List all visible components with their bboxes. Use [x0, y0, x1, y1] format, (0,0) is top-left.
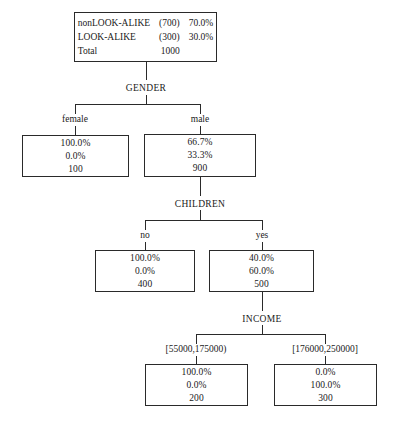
root-row-0-count: (700) [159, 16, 180, 30]
node-female-pct-lookalike: 0.0% [65, 150, 85, 163]
node-children-yes-pct-nonlookalike: 40.0% [249, 252, 274, 265]
split-label-children: CHILDREN [145, 199, 255, 210]
node-children-no-total: 400 [138, 278, 153, 291]
node-children-yes-pct-lookalike: 60.0% [249, 265, 274, 278]
node-income-low-pct-nonlookalike: 100.0% [182, 366, 212, 379]
node-male: 66.7% 33.3% 900 [144, 134, 256, 177]
node-children-no-pct-nonlookalike: 100.0% [130, 252, 160, 265]
node-income-high: 0.0% 100.0% 300 [274, 364, 377, 406]
node-children-yes: 40.0% 60.0% 500 [209, 250, 314, 292]
root-row-2-label: Total [78, 44, 150, 58]
node-children-no: 100.0% 0.0% 400 [95, 250, 195, 292]
node-male-pct-nonlookalike: 66.7% [187, 136, 212, 149]
node-children-no-pct-lookalike: 0.0% [135, 265, 155, 278]
root-row-0-pct: 70.0% [189, 16, 214, 30]
node-income-low: 100.0% 0.0% 200 [145, 364, 248, 406]
node-income-high-pct-nonlookalike: 0.0% [315, 366, 335, 379]
root-row-1-pct: 30.0% [189, 30, 214, 44]
root-row-1-label: LOOK-ALIKE [78, 30, 150, 44]
node-income-low-pct-lookalike: 0.0% [186, 379, 206, 392]
node-root: nonLOOK-ALIKE (700) 70.0% LOOK-ALIKE (30… [74, 12, 217, 62]
branch-label-yes: yes [222, 230, 302, 241]
node-income-high-total: 300 [318, 392, 333, 405]
branch-label-no: no [105, 230, 185, 241]
tree-connector-lines [0, 0, 399, 422]
branch-label-income-low: [55000,175000) [146, 344, 246, 355]
root-row-0-label: nonLOOK-ALIKE [78, 16, 150, 30]
node-female-pct-nonlookalike: 100.0% [61, 137, 91, 150]
node-male-pct-lookalike: 33.3% [187, 149, 212, 162]
root-row-2-count: 1000 [159, 44, 180, 58]
split-label-income: INCOME [212, 314, 312, 325]
branch-label-female: female [35, 114, 115, 125]
branch-label-male: male [160, 114, 240, 125]
decision-tree-diagram: nonLOOK-ALIKE (700) 70.0% LOOK-ALIKE (30… [0, 0, 399, 422]
root-row-1-count: (300) [159, 30, 180, 44]
branch-label-income-high: [176000,250000] [272, 344, 378, 355]
node-income-high-pct-lookalike: 100.0% [311, 379, 341, 392]
root-node-table: nonLOOK-ALIKE (700) 70.0% LOOK-ALIKE (30… [78, 16, 213, 58]
node-female: 100.0% 0.0% 100 [22, 135, 129, 177]
node-female-total: 100 [68, 163, 83, 176]
split-label-gender: GENDER [96, 83, 196, 94]
node-male-total: 900 [193, 162, 208, 175]
node-children-yes-total: 500 [254, 278, 269, 291]
node-income-low-total: 200 [189, 392, 204, 405]
